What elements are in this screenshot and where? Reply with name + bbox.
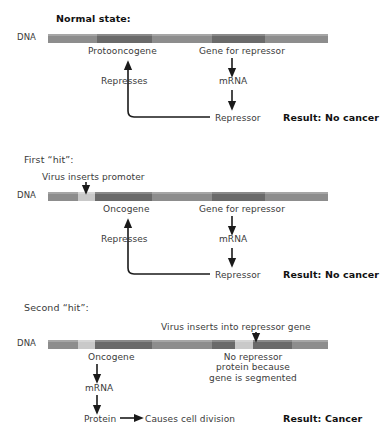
- arrow-represses-1: [128, 65, 210, 117]
- virus-inserts-promoter-label: Virus inserts promoter: [42, 172, 145, 182]
- virus-inserts-repressor-label: Virus inserts into repressor gene: [161, 322, 311, 332]
- dna-segment-virus-insert: [235, 340, 253, 349]
- gene-label-repressor-gene-1: Gene for repressor: [199, 46, 285, 56]
- arrow-overlay: [0, 0, 382, 446]
- gene-label-protooncogene: Protooncogene: [88, 46, 157, 56]
- mrna-label-3: mRNA: [85, 383, 113, 393]
- dna-label-panel-3: DNA: [17, 339, 36, 349]
- dna-segment-repressor-gene: [212, 192, 265, 201]
- gene-label-oncogene-3: Oncogene: [88, 352, 135, 362]
- dna-strand-panel-2: [48, 192, 328, 201]
- dna-segment-repressor-gene: [212, 34, 265, 43]
- result-panel-2: Result: No cancer: [283, 270, 379, 281]
- gene-label-repressor-gene-2: Gene for repressor: [199, 204, 285, 214]
- dna-segment-repressor-gene-part1: [212, 340, 235, 349]
- dna-strand-panel-1: [48, 34, 328, 43]
- result-panel-1: Result: No cancer: [283, 113, 379, 124]
- protein-label: Protein: [84, 414, 116, 424]
- represses-label-1: Represses: [101, 76, 148, 86]
- gene-label-oncogene-2: Oncogene: [103, 204, 150, 214]
- no-repressor-note: No repressor protein because gene is seg…: [193, 352, 313, 383]
- repressor-label-1: Repressor: [215, 113, 261, 123]
- panel-2-title: First “hit”:: [24, 155, 74, 166]
- represses-label-2: Represses: [101, 234, 148, 244]
- panel-1-title: Normal state:: [56, 14, 131, 25]
- dna-segment-spacer: [152, 34, 212, 43]
- dna-segment-spacer: [152, 192, 212, 201]
- dna-segment-upstream: [48, 340, 78, 349]
- dna-segment-spacer: [152, 340, 212, 349]
- causes-cell-division-label: Causes cell division: [145, 414, 235, 424]
- dna-segment-oncogene: [95, 192, 152, 201]
- dna-segment-upstream: [48, 34, 97, 43]
- figure-canvas: Normal state: DNA Protooncogene Gene for…: [0, 0, 382, 446]
- result-panel-3: Result: Cancer: [283, 414, 362, 425]
- repressor-label-2: Repressor: [215, 270, 261, 280]
- dna-segment-downstream: [265, 192, 328, 201]
- dna-segment-downstream: [265, 34, 328, 43]
- dna-segment-oncogene: [95, 340, 152, 349]
- arrow-represses-2: [128, 223, 210, 274]
- dna-segment-virus-promoter: [78, 192, 95, 201]
- dna-label-panel-2: DNA: [17, 191, 36, 201]
- panel-3-title: Second “hit”:: [24, 303, 89, 314]
- dna-segment-repressor-gene-part2: [253, 340, 292, 349]
- dna-strand-panel-3: [48, 340, 328, 349]
- dna-label-panel-1: DNA: [17, 33, 36, 43]
- dna-segment-protooncogene: [97, 34, 152, 43]
- dna-segment-virus-promoter: [78, 340, 95, 349]
- mrna-label-1: mRNA: [219, 76, 247, 86]
- dna-segment-downstream: [292, 340, 328, 349]
- dna-segment-upstream: [48, 192, 78, 201]
- mrna-label-2: mRNA: [219, 234, 247, 244]
